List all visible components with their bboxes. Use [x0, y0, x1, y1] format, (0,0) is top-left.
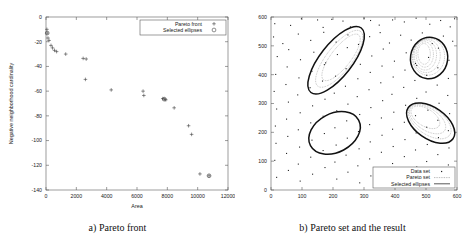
data-point — [347, 47, 348, 48]
pareto-set-ellipse — [316, 29, 367, 86]
data-point — [346, 155, 347, 156]
data-point — [448, 130, 449, 131]
data-point — [357, 165, 358, 166]
data-point — [404, 70, 405, 71]
data-point — [443, 36, 444, 37]
data-point — [381, 66, 382, 67]
data-point — [290, 25, 291, 26]
data-point — [426, 91, 427, 92]
data-point — [415, 149, 416, 150]
data-point — [334, 162, 335, 163]
data-point — [438, 48, 439, 49]
data-point — [288, 49, 289, 50]
x-tick-label: 400 — [391, 193, 400, 199]
data-point — [370, 107, 371, 108]
data-point — [393, 146, 394, 147]
y-tick-label: 100 — [258, 158, 267, 164]
data-point — [426, 75, 427, 76]
data-point — [342, 21, 343, 22]
data-point — [273, 36, 274, 37]
selected-ellipse — [301, 103, 367, 163]
data-point — [337, 54, 338, 55]
data-point — [275, 143, 276, 144]
data-point — [297, 94, 298, 95]
data-point — [310, 87, 311, 88]
y-tick-label: 400 — [258, 72, 267, 78]
y-tick-label: -20 — [35, 39, 43, 45]
data-point — [298, 77, 299, 78]
data-point — [416, 98, 417, 99]
data-point — [380, 32, 381, 33]
data-point-plus — [84, 78, 88, 82]
data-point — [426, 161, 427, 162]
data-point — [437, 154, 438, 155]
data-point — [405, 105, 406, 106]
pareto-set-ellipse — [416, 42, 433, 67]
data-point — [347, 34, 348, 35]
data-point-plus — [81, 57, 85, 61]
data-point — [416, 65, 417, 66]
data-point — [392, 19, 393, 20]
data-point — [359, 114, 360, 115]
data-point — [454, 18, 455, 19]
data-point — [450, 26, 451, 27]
x-tick-label: 0 — [270, 193, 273, 199]
data-point-plus — [141, 89, 145, 93]
data-point — [310, 157, 311, 158]
data-point — [411, 40, 412, 41]
data-point — [404, 21, 405, 22]
data-point — [449, 113, 450, 114]
data-point — [360, 64, 361, 65]
data-point — [394, 61, 395, 62]
data-point — [393, 112, 394, 113]
x-tick-label: 100 — [298, 193, 307, 199]
data-point — [381, 117, 382, 118]
data-point — [274, 91, 275, 92]
pareto-front-chart: 020004000600080001000012000-140-120-100-… — [0, 0, 235, 215]
data-point — [447, 95, 448, 96]
y-tick-label: 600 — [258, 14, 267, 20]
data-point — [299, 147, 300, 148]
data-point — [357, 78, 358, 79]
legend-label: Selected ellipses — [391, 181, 430, 187]
x-tick-label: 500 — [422, 193, 431, 199]
data-point — [347, 172, 348, 173]
legend-label: Pareto front — [175, 21, 203, 27]
data-point — [427, 144, 428, 145]
data-point — [286, 153, 287, 154]
data-point — [347, 138, 348, 139]
data-point — [448, 60, 449, 61]
plot-frame — [46, 17, 228, 190]
data-point — [336, 145, 337, 146]
data-point — [381, 152, 382, 153]
data-point — [382, 100, 383, 101]
y-tick-label: 0 — [264, 187, 267, 193]
data-point — [336, 42, 337, 43]
data-point — [288, 102, 289, 103]
data-point — [369, 36, 370, 37]
data-point — [298, 34, 299, 35]
data-point — [369, 158, 370, 159]
data-point — [288, 170, 289, 171]
data-point — [275, 74, 276, 75]
data-point — [439, 103, 440, 104]
data-point — [422, 32, 423, 33]
data-point — [275, 125, 276, 126]
legend-dot-icon — [441, 171, 442, 172]
x-tick-label: 600 — [453, 193, 462, 199]
data-point — [404, 122, 405, 123]
data-point — [357, 96, 358, 97]
data-point — [383, 49, 384, 50]
pareto-set-ellipse — [402, 97, 457, 146]
panel-pareto-front: 020004000600080001000012000-140-120-100-… — [0, 0, 235, 246]
data-point — [347, 104, 348, 105]
y-tick-label: -100 — [32, 137, 42, 143]
data-point — [274, 160, 275, 161]
data-point — [323, 27, 324, 28]
data-point-plus — [64, 52, 68, 56]
data-point — [400, 35, 401, 36]
data-point — [334, 127, 335, 128]
data-point — [324, 167, 325, 168]
data-point-plus — [198, 172, 202, 176]
pareto-set-chart: 01002003004005006000100200300400500600Da… — [235, 0, 470, 215]
